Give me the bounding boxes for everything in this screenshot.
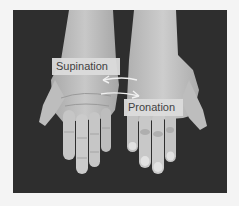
- left-hand-supinated: [39, 10, 119, 174]
- hands-photo: Supination Pronation: [13, 10, 227, 193]
- hands-illustration: [13, 10, 227, 193]
- pronation-label: Pronation: [124, 99, 183, 116]
- right-hand-pronated: [127, 10, 207, 174]
- supination-label: Supination: [52, 58, 120, 75]
